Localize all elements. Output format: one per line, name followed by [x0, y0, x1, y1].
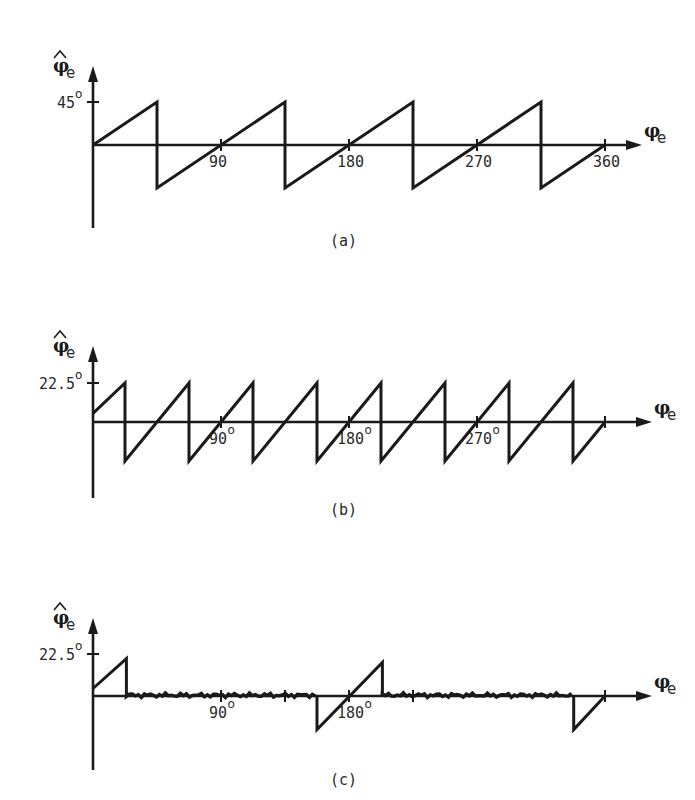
caption-a: (a): [330, 232, 357, 250]
caption-c: (c): [330, 771, 357, 789]
y-tick-degree: o: [75, 87, 82, 101]
y-axis-arrowhead: [88, 346, 98, 362]
x-axis-arrowhead: [636, 691, 652, 701]
y-label-subscript: e: [66, 64, 75, 82]
x-tick-degree: o: [365, 697, 372, 711]
y-label-subscript: e: [66, 344, 75, 362]
y-axis-arrowhead: [88, 66, 98, 82]
x-tick-label: 270: [465, 153, 492, 171]
panel-a: φeφe45o90180270360(a): [53, 51, 666, 250]
figure-canvas: φeφe45o90180270360(a)φeφe22.5o90o180o270…: [0, 0, 695, 800]
caption-b: (b): [330, 501, 357, 519]
x-tick-degree: o: [365, 423, 372, 437]
y-axis-arrowhead: [88, 618, 98, 634]
panel-c: φeφe22.5o90o180o(c): [39, 603, 676, 789]
x-tick-label: 360: [593, 153, 620, 171]
x-tick-degree: o: [493, 423, 500, 437]
x-label-subscript: e: [657, 129, 666, 147]
series-ramp-3: [574, 696, 605, 730]
x-label-subscript: e: [667, 680, 676, 698]
y-tick-label: 45: [57, 94, 75, 112]
x-tick-label: 180: [337, 153, 364, 171]
y-tick-degree: o: [75, 639, 82, 653]
panel-b: φeφe22.5o90o180o270o(b): [39, 331, 676, 519]
series-ramp-1: [93, 659, 126, 696]
x-label-subscript: e: [667, 406, 676, 424]
x-tick-degree: o: [227, 423, 234, 437]
y-tick-label: 22.5: [39, 375, 75, 393]
x-tick-label: 90: [209, 153, 227, 171]
x-axis-arrowhead: [636, 417, 652, 427]
x-axis-arrowhead: [626, 140, 642, 150]
x-tick-degree: o: [227, 697, 234, 711]
y-tick-label: 22.5: [39, 646, 75, 664]
y-label-subscript: e: [66, 616, 75, 634]
x-tick-label: 90: [209, 704, 227, 722]
y-tick-degree: o: [75, 368, 82, 382]
